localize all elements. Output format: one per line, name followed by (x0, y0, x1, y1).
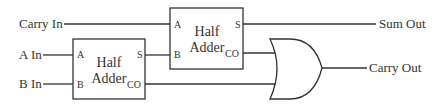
sum-out-label: Sum Out (379, 16, 426, 31)
half-adder-1-pin-co: CO (127, 79, 141, 90)
half-adder-1: A B S CO Half Adder (73, 39, 145, 99)
half-adder-2-pin-s: S (235, 19, 241, 30)
b-in-label: B In (19, 76, 42, 91)
half-adder-2-pin-co: CO (225, 48, 239, 59)
half-adder-2-title-line2: Adder (190, 40, 225, 55)
half-adder-2-pin-b: B (174, 49, 181, 60)
half-adder-1-title-line1: Half (97, 55, 122, 70)
half-adder-1-title-line2: Adder (92, 71, 127, 86)
half-adder-2-pin-a: A (174, 19, 182, 30)
half-adder-2: A B S CO Half Adder (170, 8, 243, 69)
half-adder-1-pin-b: B (77, 79, 84, 90)
or-gate-icon (270, 39, 322, 99)
carry-in-label: Carry In (19, 16, 63, 31)
half-adder-2-title-line1: Half (195, 24, 220, 39)
full-adder-diagram: Carry In A In B In A B S CO Half Adder A… (0, 0, 443, 106)
carry-out-label: Carry Out (369, 60, 422, 75)
half-adder-1-pin-a: A (77, 49, 85, 60)
half-adder-1-pin-s: S (137, 49, 143, 60)
a-in-label: A In (19, 47, 42, 62)
